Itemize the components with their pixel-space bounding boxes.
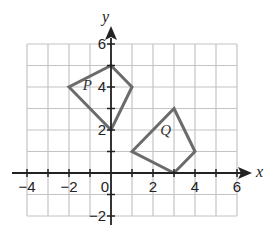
coordinate-grid-diagram: PQ −4−20246642−2 x y: [0, 0, 272, 234]
x-tick-label: 2: [149, 178, 157, 195]
x-tick-label: 6: [233, 178, 241, 195]
x-tick-label: 0: [101, 178, 109, 195]
grid-lines: [27, 44, 237, 216]
shape-p-label: P: [82, 77, 92, 93]
y-tick-label: 6: [98, 35, 106, 52]
y-tick-label: −2: [89, 207, 106, 224]
shape-q: [132, 109, 195, 174]
y-tick-label: 4: [98, 78, 106, 95]
y-tick-label: 2: [98, 121, 106, 138]
x-axis-label: x: [255, 163, 263, 180]
y-axis-arrow-icon: [105, 26, 117, 40]
y-axis-label: y: [100, 8, 110, 26]
x-tick-label: −2: [60, 178, 77, 195]
shape-q-label: Q: [160, 122, 171, 138]
x-tick-label: −4: [18, 178, 35, 195]
x-tick-label: 4: [191, 178, 199, 195]
